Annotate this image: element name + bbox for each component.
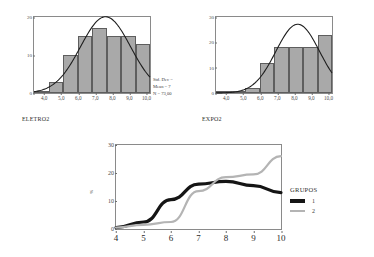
legend-label-series-2: 2 bbox=[312, 208, 315, 214]
x-tick-label: 5 bbox=[141, 234, 146, 243]
legend-item: 1 bbox=[290, 198, 317, 204]
histogram-plot-area-expo2: 0 10 20 30 4,0 5,0 6,0 7,0 8,0 9,0 10,0 bbox=[215, 16, 333, 94]
x-tick-label: 4,0 bbox=[41, 96, 47, 101]
x-tick-label: 9,0 bbox=[308, 96, 314, 101]
x-tick-label: 8 bbox=[224, 234, 229, 243]
x-tick-label: 5,0 bbox=[240, 96, 246, 101]
y-axis-label: % bbox=[89, 190, 95, 194]
legend-title: GRUPOS bbox=[290, 186, 317, 193]
y-tick-label: 10 bbox=[209, 65, 214, 70]
x-tick-label: 6,0 bbox=[257, 96, 263, 101]
y-tick-label: 20 bbox=[108, 170, 114, 176]
normal-curve-eletro2 bbox=[34, 17, 150, 93]
x-tick-label: 4,0 bbox=[223, 96, 229, 101]
y-tick-label: 20 bbox=[209, 40, 214, 45]
x-tick-label: 10,0 bbox=[142, 96, 151, 101]
mean-text: Mean = 7 bbox=[153, 83, 173, 90]
histogram-figure-eletro2: 0 10 20 4,0 5,0 6,0 7,0 8,0 9,0 10,0 Std… bbox=[0, 0, 190, 130]
x-tick-label: 8,0 bbox=[109, 96, 115, 101]
figure-caption: ELETRO2 bbox=[22, 116, 49, 122]
x-tick-label: 7,0 bbox=[274, 96, 280, 101]
x-tick-label: 7 bbox=[196, 234, 201, 243]
y-tick-label: 10 bbox=[27, 53, 32, 58]
x-tick-label: 10 bbox=[277, 234, 286, 243]
histogram-plot-area-eletro2: 0 10 20 4,0 5,0 6,0 7,0 8,0 9,0 10,0 bbox=[33, 16, 151, 94]
histogram-figure-expo2: 0 10 20 30 4,0 5,0 6,0 7,0 8,0 9,0 10,0 … bbox=[185, 0, 374, 130]
y-tick-label: 30 bbox=[209, 15, 214, 20]
x-tick-label: 9 bbox=[251, 234, 256, 243]
legend-label-series-1: 1 bbox=[312, 198, 315, 204]
line-series-path bbox=[116, 181, 281, 227]
y-tick-label: 0 bbox=[30, 91, 33, 96]
statistics-annotation-eletro2: Std. Dev = Mean = 7 N = 73,00 bbox=[153, 76, 173, 97]
legend: GRUPOS 1 2 bbox=[290, 186, 317, 218]
legend-swatch-series-1 bbox=[290, 199, 305, 202]
y-tick-label: 0 bbox=[111, 226, 114, 232]
x-tick-label: 5,0 bbox=[58, 96, 64, 101]
line-chart-figure-grupos: 0 10 20 30 4 5 6 7 8 9 10 % GRUPOS 1 2 bbox=[85, 136, 374, 257]
normal-curve-expo2 bbox=[216, 17, 332, 93]
legend-swatch-series-2 bbox=[290, 210, 305, 212]
legend-item: 2 bbox=[290, 208, 317, 214]
x-tick-label: 6 bbox=[169, 234, 174, 243]
figure-caption: EXPO2 bbox=[202, 116, 222, 122]
x-tick-label: 7,0 bbox=[92, 96, 98, 101]
line-chart-plot-area: 0 10 20 30 4 5 6 7 8 9 10 bbox=[115, 144, 282, 230]
n-text: N = 73,00 bbox=[153, 90, 173, 97]
y-tick-label: 20 bbox=[27, 15, 32, 20]
y-tick-label: 30 bbox=[108, 142, 114, 148]
line-series-path bbox=[116, 156, 281, 227]
x-tick-label: 6,0 bbox=[75, 96, 81, 101]
y-tick-label: 0 bbox=[212, 91, 215, 96]
std-dev-text: Std. Dev = bbox=[153, 76, 173, 83]
line-series-group bbox=[116, 145, 281, 229]
x-tick-label: 10,0 bbox=[324, 96, 333, 101]
x-tick-label: 4 bbox=[114, 234, 119, 243]
y-tick-label: 10 bbox=[108, 198, 114, 204]
x-tick-label: 9,0 bbox=[126, 96, 132, 101]
x-tick-label: 8,0 bbox=[291, 96, 297, 101]
